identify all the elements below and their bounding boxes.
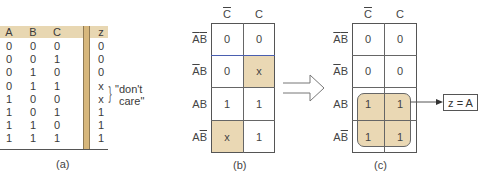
- kmap-cell: 1: [243, 87, 275, 120]
- caption-b: (b): [233, 159, 246, 171]
- row-label: AB: [322, 33, 348, 45]
- truth-table-cell: 0: [26, 41, 40, 52]
- truth-table-cell: 1: [94, 107, 108, 118]
- kmap-cell: 1: [211, 87, 243, 120]
- header-c: C: [50, 27, 64, 38]
- kmap-cell: 0: [352, 23, 384, 55]
- truth-table-cell: x: [94, 81, 108, 92]
- truth-table-cell: x: [94, 94, 108, 105]
- hollow-arrow-icon: [282, 73, 326, 103]
- truth-table-cell: 1: [2, 94, 16, 105]
- col-label-c: C: [390, 8, 410, 20]
- truth-table-cell: 1: [50, 133, 64, 144]
- truth-table-cell: 0: [2, 67, 16, 78]
- kmap-cell: 0: [211, 23, 243, 55]
- col-label-c-bar: C: [358, 8, 378, 20]
- kmap-cell: 0: [384, 23, 416, 55]
- kmap-cell: 1: [243, 120, 275, 153]
- truth-table-cell: 1: [26, 81, 40, 92]
- truth-table-cell: 1: [2, 107, 16, 118]
- kmap-cell: 0: [211, 55, 243, 87]
- truth-table-cell: 1: [26, 120, 40, 131]
- row-label: AB: [181, 131, 207, 143]
- truth-table-cell: 1: [50, 81, 64, 92]
- truth-table-cell: 0: [26, 94, 40, 105]
- row-label: AB: [181, 98, 207, 110]
- truth-table-cell: 0: [2, 54, 16, 65]
- kmap-cell: x: [211, 120, 243, 153]
- kmap-cell: x: [243, 55, 275, 87]
- kmap-cell: 1: [352, 87, 384, 120]
- truth-table-cell: 1: [26, 133, 40, 144]
- truth-table-cell: 0: [50, 94, 64, 105]
- truth-table-cell: 1: [2, 133, 16, 144]
- kmap-cell: 0: [352, 55, 384, 87]
- col-label-c: C: [249, 8, 269, 20]
- col-label-c-bar: C: [217, 8, 237, 20]
- truth-table-divider: [83, 26, 90, 150]
- result-expression: z = A: [443, 94, 478, 111]
- truth-table-cell: 0: [94, 67, 108, 78]
- truth-table-cell: 0: [50, 120, 64, 131]
- truth-table-cell: 0: [26, 107, 40, 118]
- row-label: AB: [181, 33, 207, 45]
- kmap-cell: 1: [352, 120, 384, 153]
- truth-table-cell: 0: [50, 41, 64, 52]
- dont-care-label-2: care": [119, 96, 144, 107]
- header-b: B: [26, 27, 40, 38]
- truth-table-bottom-rule: [0, 149, 108, 150]
- brace: }: [109, 83, 112, 102]
- dont-care-label-1: "don't: [115, 84, 142, 95]
- truth-table-cell: 1: [50, 107, 64, 118]
- truth-table-cell: 1: [94, 133, 108, 144]
- truth-table-cell: 0: [26, 54, 40, 65]
- row-label: AB: [322, 131, 348, 143]
- truth-table-cell: 0: [2, 41, 16, 52]
- truth-table-cell: 1: [26, 67, 40, 78]
- row-label: AB: [181, 65, 207, 77]
- kmap-cell: 0: [243, 23, 275, 55]
- row-label: AB: [322, 65, 348, 77]
- truth-table-cell: 0: [50, 67, 64, 78]
- truth-table-cell: 0: [94, 41, 108, 52]
- truth-table-cell: 1: [94, 120, 108, 131]
- header-z: z: [94, 27, 108, 38]
- header-a: A: [2, 27, 16, 38]
- row-label: AB: [322, 98, 348, 110]
- result-arrow-icon: [410, 96, 444, 108]
- truth-table-cell: 1: [2, 120, 16, 131]
- caption-a: (a): [56, 158, 69, 170]
- kmap-cell: 1: [384, 120, 416, 153]
- kmap-cell: 0: [384, 55, 416, 87]
- truth-table-cell: 0: [94, 54, 108, 65]
- truth-table-cell: 1: [50, 54, 64, 65]
- truth-table-cell: 0: [2, 81, 16, 92]
- caption-c: (c): [374, 159, 387, 171]
